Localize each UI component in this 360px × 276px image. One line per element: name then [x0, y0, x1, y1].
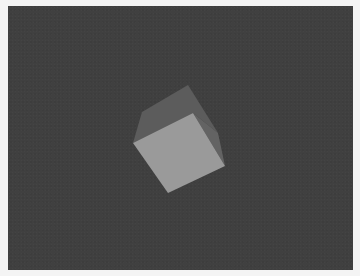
cube-scene: [0, 0, 360, 276]
cube: [133, 85, 225, 193]
